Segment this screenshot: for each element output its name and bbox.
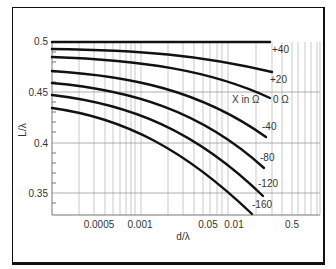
x-tick-0.05: 0.05 [198,219,218,230]
y-tick-0.4: 0.4 [34,138,48,149]
series-label-plus40: +40 [272,44,289,55]
y-axis-label: L/λ [17,123,28,136]
series-label-minus160: -160 [252,199,272,210]
chart-canvas: 0.5 0.45 0.4 0.35 L/λ 0.0005 0.001 0.05 … [0,0,336,269]
curve-minus120 [52,95,263,196]
x-tick-0.01: 0.01 [224,219,244,230]
y-tick-0.45: 0.45 [29,87,49,98]
x-tick-0.5: 0.5 [285,219,299,230]
horizontal-grid [52,92,320,193]
vertical-grid [79,42,317,215]
axes [52,42,320,215]
series-label-minus120: -120 [258,178,278,189]
x-axis-label: d/λ [176,231,189,242]
x-tick-0.0005: 0.0005 [84,219,115,230]
curves [52,42,272,214]
x-tick-0.001: 0.001 [127,219,152,230]
series-label-0: 0 Ω [273,94,289,105]
series-label-minus40: -40 [262,121,277,132]
series-label-plus20: +20 [270,74,287,85]
y-tick-0.35: 0.35 [29,188,49,199]
annotation-x-in-ohm: X in Ω [232,94,260,105]
curve-plus20 [52,49,272,72]
series-label-minus80: -80 [260,152,275,163]
y-tick-0.5: 0.5 [34,36,48,47]
